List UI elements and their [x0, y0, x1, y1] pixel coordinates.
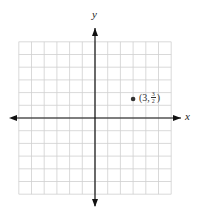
point-label-open: (3, — [139, 92, 150, 103]
y-axis-arrow-down-icon — [92, 199, 98, 207]
x-axis-arrow-left-icon — [9, 115, 17, 121]
point-label: (3, 3 2 ) — [139, 91, 160, 104]
point-label-close: ) — [157, 92, 160, 103]
x-axis-arrow-right-icon — [173, 115, 181, 121]
y-axis-label: y — [92, 8, 97, 20]
coordinate-plane — [0, 0, 198, 212]
x-axis-label: x — [185, 110, 190, 122]
y-axis-arrow-up-icon — [92, 28, 98, 36]
fraction: 3 2 — [151, 91, 156, 104]
data-point — [131, 97, 136, 102]
fraction-denominator: 2 — [152, 98, 155, 104]
